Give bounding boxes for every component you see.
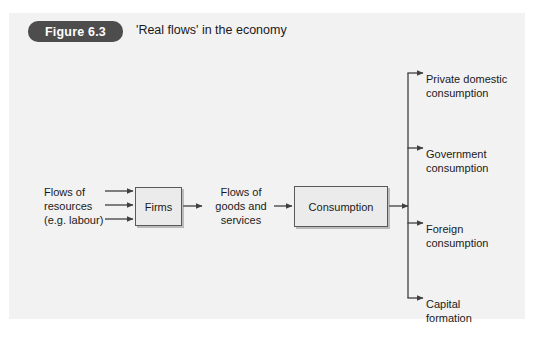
branch-1-line-2: consumption xyxy=(426,161,488,175)
input-flow-label: Flows of resources (e.g. labour) xyxy=(44,185,103,227)
branch-private-domestic-consumption: Private domestic consumption xyxy=(426,72,507,100)
figure-panel: Figure 6.3 'Real flows' in the economy xyxy=(9,13,525,319)
node-firms-label: Firms xyxy=(145,201,173,213)
branch-3-line-2: formation xyxy=(426,311,472,325)
middle-flow-line-1: Flows of xyxy=(205,185,277,199)
node-consumption[interactable]: Consumption xyxy=(294,186,388,227)
branch-2-line-1: Foreign xyxy=(426,222,488,236)
node-consumption-label: Consumption xyxy=(309,201,374,213)
branch-0-line-2: consumption xyxy=(426,86,507,100)
branch-capital-formation: Capital formation xyxy=(426,297,472,325)
branch-government-consumption: Government consumption xyxy=(426,147,488,175)
node-firms[interactable]: Firms xyxy=(135,187,182,226)
branch-1-line-1: Government xyxy=(426,147,488,161)
middle-flow-line-2: goods and xyxy=(205,199,277,213)
middle-flow-label: Flows of goods and services xyxy=(205,185,277,227)
branch-0-line-1: Private domestic xyxy=(426,72,507,86)
branch-foreign-consumption: Foreign consumption xyxy=(426,222,488,250)
branch-2-line-2: consumption xyxy=(426,236,488,250)
middle-flow-line-3: services xyxy=(205,213,277,227)
input-flow-line-2: resources xyxy=(44,199,103,213)
branch-3-line-1: Capital xyxy=(426,297,472,311)
flow-diagram: Flows of resources (e.g. labour) Firms F… xyxy=(9,13,525,319)
input-flow-line-3: (e.g. labour) xyxy=(44,213,103,227)
input-flow-line-1: Flows of xyxy=(44,185,103,199)
